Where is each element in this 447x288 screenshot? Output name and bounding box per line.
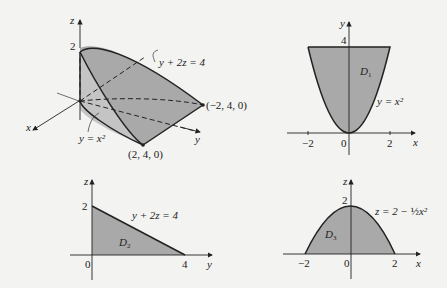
figure-canvas: z 2 x y y + 2z = 4 y = x² (−2, 4, 0) (2,… <box>0 0 447 288</box>
d3-x-label: x <box>415 257 421 269</box>
d1-tick-0: 0 <box>341 137 347 149</box>
d3-tick-2: 2 <box>342 194 348 206</box>
d3-curve-label: z = 2 − ½x² <box>374 205 428 217</box>
d1-tick-2: 2 <box>387 137 393 149</box>
d3-z-label: z <box>342 175 348 187</box>
cylinder-label: y = x² <box>78 132 106 144</box>
figure-svg: z 2 x y y + 2z = 4 y = x² (−2, 4, 0) (2,… <box>0 0 447 288</box>
point-left <box>201 103 205 107</box>
y-axis-label: y <box>194 133 200 145</box>
d1-x-label: x <box>412 136 418 148</box>
d2-tick-2: 2 <box>82 200 88 212</box>
point-right <box>141 143 145 147</box>
d3-tick-neg2: −2 <box>298 257 310 269</box>
d3-tick-2x: 2 <box>392 257 398 269</box>
d1-tick-neg2: −2 <box>302 137 314 149</box>
solid-3d-figure: z 2 x y y + 2z = 4 y = x² (−2, 4, 0) (2,… <box>25 14 247 161</box>
x-axis-back <box>57 93 79 101</box>
point-right-label: (2, 4, 0) <box>128 148 163 161</box>
d2-z-label: z <box>83 175 89 187</box>
d2-y-label: y <box>206 258 212 270</box>
plane-leader <box>153 50 158 62</box>
origin-point <box>78 99 81 102</box>
x-axis-label: x <box>25 121 31 133</box>
d1-curve-label: y = x² <box>376 95 404 107</box>
d2-tick-4: 4 <box>182 258 188 270</box>
projection-d2: z y 2 0 4 y + 2z = 4 D2 <box>70 175 212 280</box>
d1-tick-4: 4 <box>341 34 347 46</box>
plane-label: y + 2z = 4 <box>158 56 206 68</box>
d2-tick-0: 0 <box>85 258 91 270</box>
d3-tick-0: 0 <box>344 257 350 269</box>
x-axis <box>33 101 79 130</box>
d1-y-label: y <box>339 17 345 29</box>
d2-curve-label: y + 2z = 4 <box>131 209 179 221</box>
projection-d1: y x 4 −2 0 2 D1 y = x² <box>287 17 418 155</box>
z-tick-2: 2 <box>70 40 76 52</box>
projection-d3: z x 2 −2 0 2 z = 2 − ½x² D3 <box>283 175 428 279</box>
y-axis <box>180 127 200 132</box>
z-axis-label: z <box>69 14 75 26</box>
point-left-label: (−2, 4, 0) <box>206 99 247 112</box>
